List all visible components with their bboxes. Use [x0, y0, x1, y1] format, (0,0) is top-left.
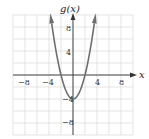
y-tick-label: 8 [66, 24, 71, 33]
x-tick-label: 4 [95, 78, 100, 87]
x-axis-arrow-icon [130, 73, 137, 78]
x-tick-label: −8 [18, 78, 30, 87]
y-tick-label: 4 [66, 48, 71, 57]
x-tick-label: 8 [119, 78, 124, 87]
y-axis-label: g(x) [60, 3, 80, 14]
y-axis-arrow-icon [71, 13, 76, 20]
y-tick-label: −8 [62, 118, 74, 127]
function-graph: g(x) x −8 −4 4 8 8 4 −8 −4 [0, 0, 149, 139]
axes [13, 13, 137, 135]
vertex-y-label: −4 [62, 95, 74, 104]
x-axis-label: x [139, 69, 145, 80]
x-tick-label: −4 [42, 78, 54, 87]
